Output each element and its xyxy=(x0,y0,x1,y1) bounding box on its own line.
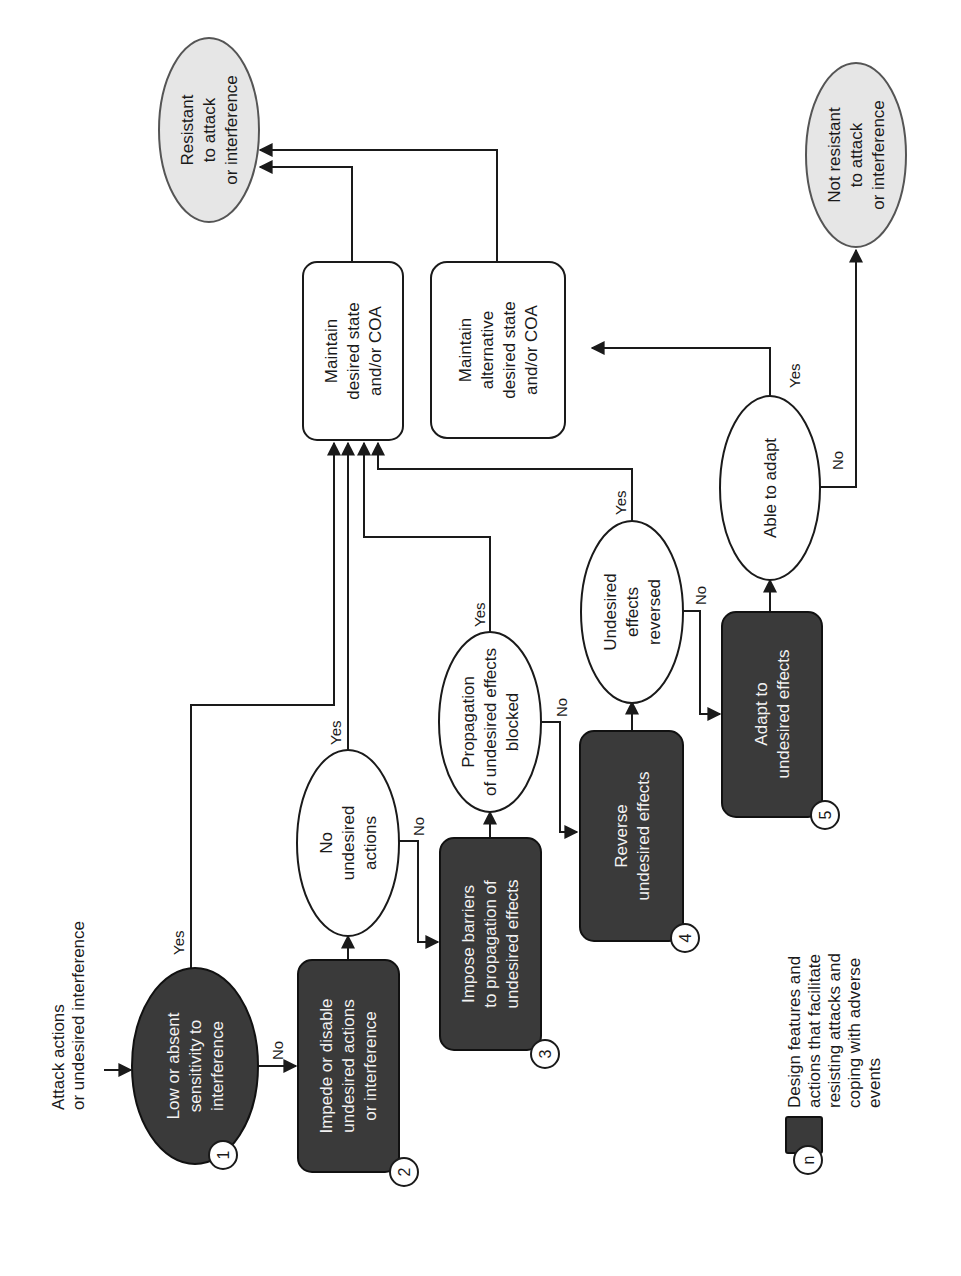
svg-text:1: 1 xyxy=(215,1150,232,1159)
svg-text:Maintain: Maintain xyxy=(456,318,475,382)
svg-text:effects: effects xyxy=(623,587,642,637)
svg-text:and/or COA: and/or COA xyxy=(366,305,385,395)
svg-text:alternative: alternative xyxy=(478,311,497,389)
svg-text:to attack: to attack xyxy=(847,122,866,187)
svg-text:2: 2 xyxy=(396,1167,413,1176)
edge-label-yes: Yes xyxy=(786,364,803,388)
svg-text:undesired actions: undesired actions xyxy=(339,999,358,1132)
svg-text:5: 5 xyxy=(817,810,834,819)
svg-text:undesired: undesired xyxy=(339,806,358,881)
svg-text:Attack actions: Attack actions xyxy=(49,1004,68,1110)
svg-text:reversed: reversed xyxy=(645,579,664,645)
svg-text:undesired effects: undesired effects xyxy=(774,649,793,778)
edge-d3-no-n5 xyxy=(683,611,720,714)
edge-d1-no-n3 xyxy=(399,841,438,942)
svg-text:or undesired interference: or undesired interference xyxy=(69,921,88,1110)
svg-text:desired state: desired state xyxy=(500,301,519,398)
svg-text:undesired effects: undesired effects xyxy=(634,771,653,900)
node-adapt-effects: Adapt to undesired effects 5 xyxy=(722,612,839,829)
edge-d4-yes-m2 xyxy=(592,348,770,396)
svg-text:and/or COA: and/or COA xyxy=(522,304,541,394)
edge-label-yes: Yes xyxy=(471,603,488,627)
svg-text:sensitivity to: sensitivity to xyxy=(186,1020,205,1113)
svg-text:Reverse: Reverse xyxy=(612,804,631,867)
svg-text:of undesired effects: of undesired effects xyxy=(481,648,500,796)
svg-text:undesired effects: undesired effects xyxy=(503,879,522,1008)
edge-label-yes: Yes xyxy=(170,931,187,955)
svg-text:3: 3 xyxy=(537,1049,554,1058)
decision-effects-reversed: Undesired effects reversed xyxy=(581,521,683,703)
svg-text:Propagation: Propagation xyxy=(459,676,478,768)
svg-text:Impose barriers: Impose barriers xyxy=(459,885,478,1003)
svg-text:to attack: to attack xyxy=(200,97,219,162)
svg-text:Able to adapt: Able to adapt xyxy=(761,438,780,538)
decision-no-undesired-actions: No undesired actions xyxy=(297,750,399,936)
node-low-sensitivity: Low or absent sensitivity to interferenc… xyxy=(132,968,258,1169)
svg-text:resisting attacks and: resisting attacks and xyxy=(825,953,844,1108)
svg-text:Impede or disable: Impede or disable xyxy=(317,998,336,1133)
svg-text:No: No xyxy=(317,832,336,854)
svg-text:blocked: blocked xyxy=(503,693,522,752)
resistance-flowchart: Yes No Yes No Yes No Yes No Yes No Attac… xyxy=(0,0,961,1276)
legend: n Design features and actions that facil… xyxy=(785,953,884,1174)
edge-d2-no-n4 xyxy=(540,722,577,832)
svg-text:actions that facilitate: actions that facilitate xyxy=(805,954,824,1108)
edge-label-yes: Yes xyxy=(327,721,344,745)
outcome-maintain-desired-state: Maintain desired state and/or COA xyxy=(303,262,403,440)
terminal-resistant: Resistant to attack or interference xyxy=(159,38,259,222)
edge-label-no: No xyxy=(410,817,427,836)
edge-d3-yes-m1 xyxy=(378,443,632,521)
edge-m1-t1 xyxy=(260,167,352,262)
outcome-maintain-alternative-state: Maintain alternative desired state and/o… xyxy=(431,262,565,438)
svg-text:desired state: desired state xyxy=(344,302,363,399)
edge-label-no: No xyxy=(692,586,709,605)
edge-label-no: No xyxy=(829,451,846,470)
svg-text:Low or absent: Low or absent xyxy=(164,1012,183,1119)
svg-text:or interference: or interference xyxy=(361,1011,380,1121)
svg-text:or interference: or interference xyxy=(869,100,888,210)
start-label: Attack actions or undesired interference xyxy=(49,921,88,1110)
svg-text:n: n xyxy=(800,1156,817,1165)
edge-label-no: No xyxy=(553,698,570,717)
svg-text:coping with adverse: coping with adverse xyxy=(845,958,864,1108)
svg-text:to propagation of: to propagation of xyxy=(481,880,500,1008)
svg-text:Not resistant: Not resistant xyxy=(825,107,844,203)
decision-propagation-blocked: Propagation of undesired effects blocked xyxy=(439,632,541,812)
svg-text:Adapt to: Adapt to xyxy=(752,682,771,745)
svg-text:actions: actions xyxy=(361,816,380,870)
decision-able-to-adapt: Able to adapt xyxy=(720,396,820,580)
svg-text:Resistant: Resistant xyxy=(178,94,197,165)
node-impede-disable: Impede or disable undesired actions or i… xyxy=(298,960,418,1186)
edge-label-yes: Yes xyxy=(612,491,629,515)
svg-text:interference: interference xyxy=(208,1021,227,1111)
svg-text:Undesired: Undesired xyxy=(601,573,620,651)
svg-text:Design features and: Design features and xyxy=(785,956,804,1108)
terminal-not-resistant: Not resistant to attack or interference xyxy=(806,63,906,247)
edge-label-no: No xyxy=(269,1041,286,1060)
svg-text:events: events xyxy=(865,1058,884,1108)
svg-text:4: 4 xyxy=(677,933,694,942)
node-reverse-effects: Reverse undesired effects 4 xyxy=(580,731,699,952)
svg-text:Maintain: Maintain xyxy=(322,319,341,383)
node-impose-barriers: Impose barriers to propagation of undesi… xyxy=(440,838,559,1068)
svg-text:or interference: or interference xyxy=(222,75,241,185)
